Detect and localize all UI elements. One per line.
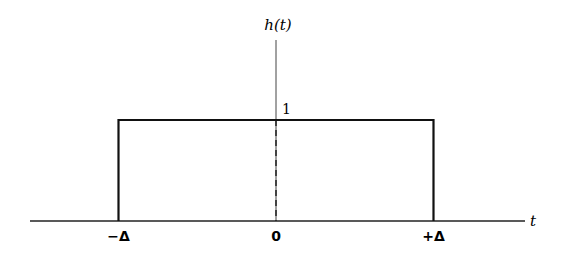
x-axis-label: t (530, 212, 537, 230)
rectangular-pulse-diagram: h(t) t 1 −Δ 0 +Δ (0, 0, 561, 258)
y-axis-label: h(t) (264, 16, 292, 34)
x-tick-label: 0 (271, 228, 281, 244)
y-tick-label: 1 (282, 101, 291, 117)
x-tick-label: +Δ (422, 228, 445, 244)
x-tick-label: −Δ (107, 228, 130, 244)
